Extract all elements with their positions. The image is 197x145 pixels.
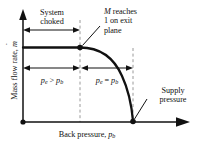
choke-callout-line3: plane — [104, 26, 137, 35]
pe-eq-pb-right-arrowhead — [126, 65, 133, 71]
supply-pressure-leader-line — [135, 99, 148, 119]
pe-gt-pb-sub2: b — [60, 79, 63, 85]
y-axis-arrowhead — [19, 9, 27, 20]
pe-gt-pb-operator: > — [48, 76, 57, 85]
choke-callout-line1: M reaches — [104, 7, 137, 16]
supply-pressure-annotation: Supply pressure — [150, 86, 196, 105]
pe-eq-pb-sub2: b — [115, 79, 118, 85]
choke-callout-leader-line — [83, 26, 101, 46]
y-axis-label-symbol: m — [10, 41, 19, 47]
origin-point-marker — [20, 119, 25, 124]
pe-eq-pb-left-arrowhead — [81, 65, 88, 71]
system-choked-line1: System — [28, 8, 76, 17]
supply-pressure-line2: pressure — [150, 95, 196, 104]
mass-flow-vs-back-pressure-figure: System choked M reaches 1 on exit plane … — [0, 0, 197, 145]
pe-gt-pb-label: pe > pb — [26, 76, 78, 88]
supply-pressure-marker — [130, 119, 136, 125]
y-axis-label: Mass flow rate, m — [10, 23, 19, 119]
pe-gt-pb-left-arrowhead — [23, 65, 30, 71]
system-choked-right-arrowhead — [73, 27, 80, 33]
x-axis-arrowhead — [176, 117, 190, 126]
pe-eq-pb-operator: = — [103, 76, 112, 85]
mach-symbol: M — [104, 7, 111, 16]
pe-eq-pb-label: pe = pb — [83, 76, 131, 88]
choke-callout-line2: 1 on exit — [104, 16, 137, 25]
choke-point-marker — [77, 45, 83, 51]
supply-pressure-line1: Supply — [150, 86, 196, 95]
x-axis-label: Back pressure, pb — [33, 130, 141, 142]
choke-callout-line1-rest: reaches — [111, 7, 137, 16]
pe-gt-pb-right-arrowhead — [73, 65, 80, 71]
y-axis-label-prefix: Mass flow rate, — [10, 47, 19, 100]
x-axis-label-prefix: Back pressure, — [59, 130, 109, 139]
system-choked-left-arrowhead — [23, 27, 30, 33]
system-choked-annotation: System choked — [28, 8, 76, 27]
choke-callout-annotation: M reaches 1 on exit plane — [104, 7, 137, 35]
x-axis-label-sub: b — [112, 133, 115, 139]
system-choked-line2: choked — [28, 17, 76, 26]
